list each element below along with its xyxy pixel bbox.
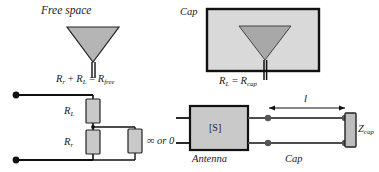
- antenna-triangle-icon: [67, 27, 119, 62]
- port-dot-left-bottom: [265, 140, 271, 146]
- length-arrow-head-left: [269, 105, 275, 110]
- terminal-dot-top: [13, 92, 20, 99]
- resistor-shunt-symbol: [128, 129, 142, 153]
- free-space-title: Free space: [41, 5, 91, 17]
- resistor-rl-symbol: [86, 99, 100, 123]
- eq-term-rr: Rr: [56, 73, 65, 84]
- figure-canvas: Free space Rr + RL = Rfree RL Rr ∞ or 0 …: [0, 0, 379, 172]
- shunt-value-label: ∞ or 0: [147, 136, 174, 147]
- length-label: l: [304, 93, 307, 104]
- junction-dot: [91, 125, 95, 129]
- diagram-artwork: [0, 0, 379, 172]
- resistor-rr-label: Rr: [64, 137, 73, 149]
- cap-eq-term-rcap: Rcap: [240, 75, 256, 86]
- antenna-caption: Antenna: [192, 154, 227, 165]
- cap-enclosure-illustration: [207, 9, 319, 80]
- load-impedance-symbol: [345, 113, 356, 147]
- free-space-antenna-symbol: [67, 27, 119, 78]
- free-space-equivalent-circuit: [13, 92, 142, 164]
- cap-network-model: [176, 105, 356, 150]
- port-dot-left-top: [265, 115, 271, 121]
- resistor-rl-label: RL: [64, 106, 74, 118]
- length-arrow-head-right: [339, 105, 345, 110]
- cap-equation: RL = Rcap: [219, 76, 257, 88]
- eq-term-rfree: Rfree: [98, 73, 115, 84]
- free-space-equation: Rr + RL = Rfree: [56, 74, 115, 86]
- eq-term-rl: RL: [76, 73, 86, 84]
- cap-eq-term-rl: RL: [219, 75, 229, 86]
- resistor-rr-symbol: [86, 130, 100, 154]
- cap-line-caption: Cap: [285, 154, 303, 165]
- s-parameter-block-label: [S]: [209, 123, 221, 133]
- load-impedance-label: Zcap: [358, 124, 374, 136]
- terminal-dot-bottom: [13, 157, 20, 164]
- cap-title: Cap: [180, 7, 198, 18]
